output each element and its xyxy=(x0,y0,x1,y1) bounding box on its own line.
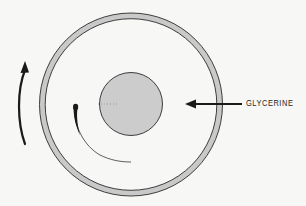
glycerine-label: GLYCERINE xyxy=(246,98,293,108)
rotation-arrow-icon xyxy=(19,61,29,144)
